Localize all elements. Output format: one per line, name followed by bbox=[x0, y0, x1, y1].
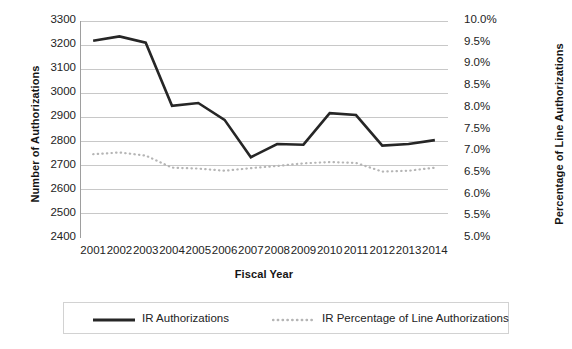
y-axis-right-tick-label: 7.5% bbox=[464, 122, 512, 134]
y-axis-left-tick-label: 3000 bbox=[32, 85, 76, 97]
legend-line-dotted bbox=[272, 314, 316, 326]
y-axis-right-tick-label: 6.5% bbox=[464, 165, 512, 177]
series-line-1 bbox=[93, 36, 435, 157]
legend-item-ir-percentage: IR Percentage of Line Authorizations bbox=[272, 303, 509, 333]
y-axis-right-tick-label: 7.0% bbox=[464, 143, 512, 155]
plot-area bbox=[80, 21, 448, 238]
legend-swatch-dotted-line bbox=[272, 312, 316, 324]
x-axis-title: Fiscal Year bbox=[80, 268, 448, 280]
x-axis-tick-label: 2014 bbox=[418, 244, 452, 256]
gridlines bbox=[80, 21, 448, 238]
y-axis-left-tick-label: 2900 bbox=[32, 109, 76, 121]
axis-tick-marks bbox=[80, 21, 448, 238]
y-axis-right-tick-label: 5.5% bbox=[464, 208, 512, 220]
y-axis-right-tick-label: 8.5% bbox=[464, 78, 512, 90]
axis-lines bbox=[80, 21, 448, 238]
legend-label-ir-percentage: IR Percentage of Line Authorizations bbox=[322, 312, 509, 324]
y-axis-left-tick-label: 2400 bbox=[32, 230, 76, 242]
y-axis-left-tick-label: 2700 bbox=[32, 158, 76, 170]
y-axis-left-tick-label: 3100 bbox=[32, 61, 76, 73]
y-axis-right-tick-label: 9.5% bbox=[464, 35, 512, 47]
y-axis-right-tick-label: 10.0% bbox=[464, 13, 512, 25]
y-axis-right-tick-label: 8.0% bbox=[464, 100, 512, 112]
chart-legend: IR Authorizations IR Percentage of Line … bbox=[63, 302, 509, 334]
plot-svg bbox=[80, 21, 448, 238]
legend-label-ir-authorizations: IR Authorizations bbox=[142, 312, 229, 324]
y-axis-right-tick-label: 5.0% bbox=[464, 230, 512, 242]
y-axis-left-tick-label: 2500 bbox=[32, 206, 76, 218]
y-axis-left-tick-label: 3200 bbox=[32, 37, 76, 49]
series-lines bbox=[93, 36, 435, 171]
y-axis-right-title: Percentage of Line Authorizations bbox=[553, 19, 565, 249]
y-axis-left-tick-label: 2600 bbox=[32, 182, 76, 194]
y-axis-right-tick-label: 9.0% bbox=[464, 56, 512, 68]
series-line-2 bbox=[93, 153, 435, 172]
y-axis-right-tick-label: 6.0% bbox=[464, 187, 512, 199]
chart-container: Number of Authorizations Percentage of L… bbox=[0, 0, 572, 349]
legend-line-solid bbox=[92, 314, 136, 326]
legend-swatch-solid-line bbox=[92, 312, 136, 324]
y-axis-left-tick-label: 3300 bbox=[32, 13, 76, 25]
y-axis-left-tick-label: 2800 bbox=[32, 134, 76, 146]
legend-item-ir-authorizations: IR Authorizations bbox=[92, 303, 229, 333]
